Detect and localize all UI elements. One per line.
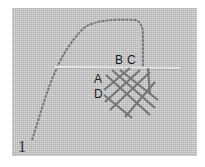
label-b: B	[115, 54, 123, 66]
step-number: 1	[18, 139, 26, 155]
working-thread	[32, 20, 143, 140]
label-d: D	[94, 88, 103, 100]
stitch-illustration	[0, 0, 205, 167]
label-a: A	[94, 73, 102, 85]
label-c: C	[127, 54, 136, 66]
guide-thread	[55, 67, 180, 68]
lattice-stitches	[104, 68, 158, 118]
